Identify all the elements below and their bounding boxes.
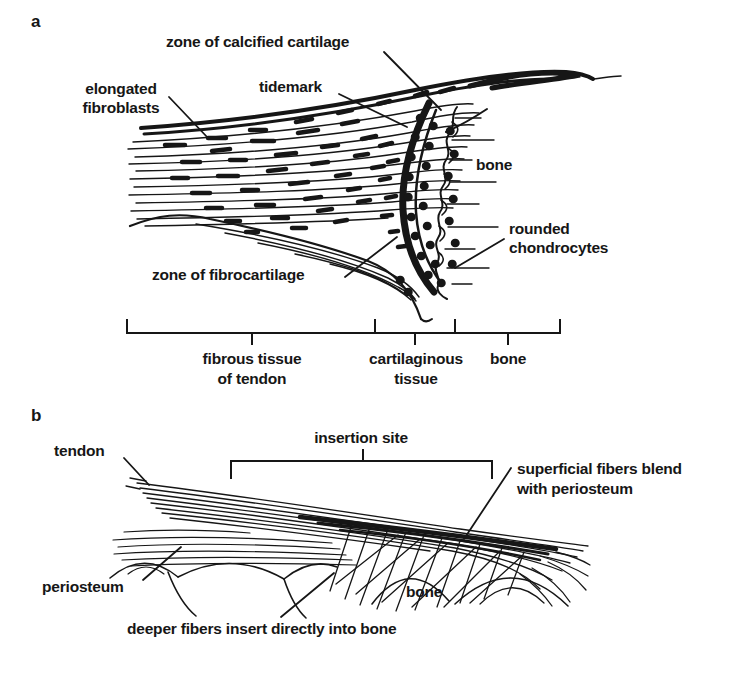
leader-chondrocytes (455, 239, 504, 268)
panel-a-letter: a (31, 13, 40, 31)
bone-surface-b (110, 563, 568, 618)
label-bone-b: bone (406, 582, 442, 601)
leader-tendon (124, 458, 149, 485)
scientific-figure: a zone of calcified cartilage tidemark e… (0, 0, 746, 675)
region-label-bone: bone (468, 349, 548, 369)
label-bone-a: bone (476, 155, 512, 174)
label-zone-of-calcified-cartilage: zone of calcified cartilage (166, 32, 349, 51)
leader-deeper-fibers (281, 573, 334, 617)
label-tidemark: tidemark (259, 77, 322, 96)
leader-superficial-fibers (464, 468, 511, 539)
region-label-fibrous-tissue-of-tendon: fibrous tissue of tendon (167, 349, 337, 389)
label-periosteum: periosteum (42, 577, 124, 596)
panel-b-letter: b (31, 407, 41, 425)
region-scale-bracket (127, 320, 560, 344)
panel-a-art (127, 52, 621, 344)
label-zone-of-fibrocartilage: zone of fibrocartilage (152, 265, 304, 284)
label-superficial-fibers-blend: superficial fibers blend with periosteum (517, 459, 682, 499)
label-insertion-site: insertion site (286, 428, 436, 447)
label-elongated-fibroblasts: elongated fibroblasts (58, 79, 184, 117)
label-rounded-chondrocytes: rounded chondrocytes (509, 219, 608, 257)
label-deeper-fibers-insert: deeper fibers insert directly into bone (127, 619, 397, 638)
insertion-site-bracket (231, 450, 492, 478)
label-tendon: tendon (54, 441, 104, 460)
